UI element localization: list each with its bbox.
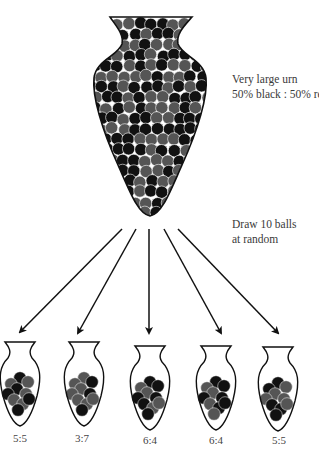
draw-label-line2: at random <box>232 232 297 247</box>
sample-4-ratio: 6:4 <box>196 434 236 446</box>
large-urn-balls <box>83 17 215 220</box>
source-urn-label-line2: 50% black : 50% red <box>232 87 319 102</box>
sample-2-ratio: 3:7 <box>62 432 102 444</box>
sample-ball <box>208 408 221 421</box>
sample-ball <box>219 397 232 410</box>
sample-ball <box>23 393 36 406</box>
draw-label: Draw 10 balls at random <box>232 217 297 247</box>
sample-ball <box>270 409 283 422</box>
sample-ball <box>281 398 294 411</box>
draw-label-line1: Draw 10 balls <box>232 217 297 232</box>
sample-ball <box>22 376 35 389</box>
sample-ball <box>142 408 155 421</box>
sample-ball <box>87 393 100 406</box>
sample-urn-4 <box>196 346 235 430</box>
sample-ball <box>152 380 165 393</box>
sample-urn-3 <box>130 346 169 430</box>
sample-5-ratio: 5:5 <box>259 434 299 446</box>
sample-urn-2 <box>64 342 103 426</box>
sample-ball <box>218 380 231 393</box>
sample-1-ratio: 5:5 <box>0 432 40 444</box>
sample-urn-1 <box>0 342 39 426</box>
sample-ball <box>12 404 25 417</box>
source-urn-label-line1: Very large urn <box>232 72 319 87</box>
sample-3-ratio: 6:4 <box>130 434 170 446</box>
sample-ball <box>153 397 166 410</box>
sample-urns <box>0 342 297 431</box>
sample-urn-5 <box>258 347 297 431</box>
source-urn-label: Very large urn 50% black : 50% red <box>232 72 319 102</box>
sample-ball <box>76 404 89 417</box>
sample-ball <box>280 381 293 394</box>
sample-ball <box>86 376 99 389</box>
urn-sampling-diagram: Very large urn 50% black : 50% red Draw … <box>0 0 319 452</box>
large-urn <box>83 17 215 220</box>
